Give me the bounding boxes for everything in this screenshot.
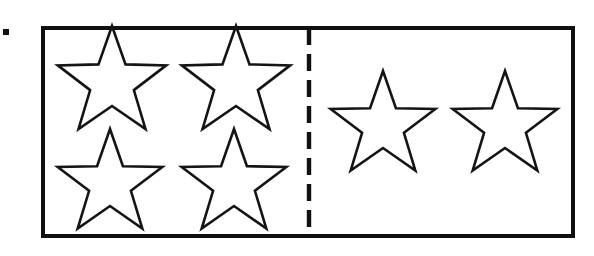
star-partition-figure [0,0,594,256]
figure-canvas: A rectangle split by a dashed vertical l… [0,0,594,256]
